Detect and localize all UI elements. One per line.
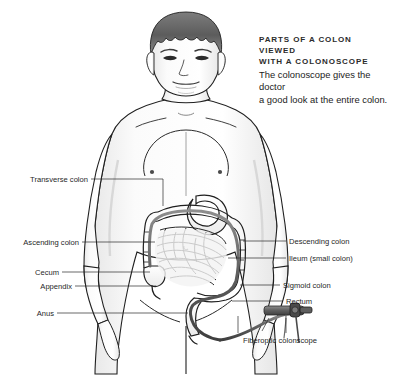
label-cecum: Cecum [0, 268, 59, 277]
label-anus: Anus [0, 309, 54, 318]
groin-left [140, 300, 180, 322]
anus [189, 336, 197, 344]
nipple-right [218, 170, 222, 174]
right-ear [218, 52, 225, 75]
caption-title-line1: Parts of a colon viewed [259, 34, 391, 56]
viscera-shading [155, 229, 227, 287]
caption-description-line2: a good look at the entire colon. [259, 94, 391, 106]
label-appendix: Appendix [0, 282, 72, 291]
appendix [152, 286, 160, 299]
label-sigmoid-colon: Sigmoid colon [283, 281, 331, 290]
illustration-page: Parts of a colon viewed with a colonosco… [0, 0, 394, 375]
label-transverse-colon: Transverse colon [0, 175, 88, 184]
scope-knob-dial [292, 307, 298, 313]
label-ascending-colon: Ascending colon [0, 238, 79, 247]
nipple-left [150, 170, 154, 174]
label-fiberoptic-colonoscope: Fiberoptic colonscope [243, 336, 317, 345]
caption-title-line2: with a colonoscope [259, 56, 391, 67]
label-rectum: Rectum [286, 297, 312, 306]
label-descending-colon: Descending colon [289, 237, 349, 246]
scope-eyepiece [300, 307, 312, 313]
label-ileum: Ileum (small colon) [289, 254, 353, 263]
left-ear [147, 52, 154, 75]
caption-description-line1: The colonoscope gives the doctor [259, 69, 391, 92]
figure-caption: Parts of a colon viewed with a colonosco… [259, 34, 391, 106]
